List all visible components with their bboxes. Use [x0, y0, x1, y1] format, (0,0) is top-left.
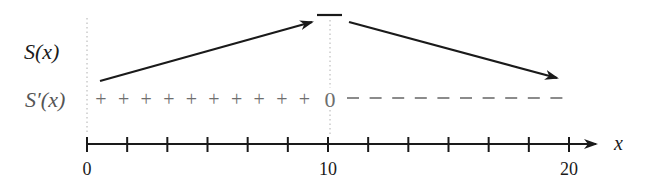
positive-sign-group: ++++++++++	[95, 88, 310, 110]
zero-derivative-label: 0	[325, 87, 336, 112]
positive-sign: +	[208, 88, 219, 110]
positive-sign: +	[186, 88, 197, 110]
positive-sign: +	[276, 88, 287, 110]
x-axis-tick-labels: 01020	[83, 159, 579, 179]
positive-sign: +	[231, 88, 242, 110]
sign-chart-diagram: S(x) S′(x) ++++++++++ 0 01020 x	[0, 0, 645, 189]
x-axis-variable-label: x	[613, 132, 623, 154]
decreasing-arrow	[349, 22, 557, 78]
positive-sign: +	[141, 88, 152, 110]
positive-sign: +	[254, 88, 265, 110]
positive-sign: +	[95, 88, 106, 110]
x-axis-tick-label: 0	[83, 159, 92, 179]
positive-sign: +	[163, 88, 174, 110]
function-row-label: S(x)	[24, 39, 59, 64]
positive-sign: +	[299, 88, 310, 110]
increasing-arrow	[100, 22, 312, 81]
positive-sign: +	[118, 88, 129, 110]
derivative-row-label: S′(x)	[25, 87, 65, 112]
x-axis-tick-label: 10	[319, 159, 337, 179]
x-axis-tick-label: 20	[560, 159, 578, 179]
